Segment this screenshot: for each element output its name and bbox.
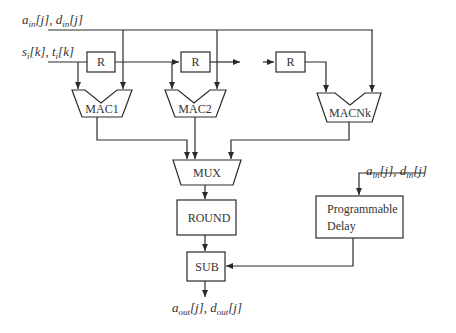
mux-label: MUX [193,166,221,180]
wire-r3-to-macnk [305,62,326,92]
macnk-label: MACNk [329,106,371,120]
register-2-label: R [191,55,199,69]
input-label-a-d-in: ain[j], din[j] [22,12,83,29]
wire-mac1-to-mux [97,117,187,159]
delay-label-line1: Programmable [327,202,398,216]
wire-delay-to-sub [226,238,353,266]
delay-label-line2: Delay [327,219,356,233]
output-label-a-d-out: aout[j], dout[j] [172,300,242,317]
sub-label: SUB [195,260,218,274]
mac1-label: MAC1 [85,102,118,116]
wire-macnk-to-mux [231,122,349,159]
delay-input-label: ain[j], din[j] [366,163,427,180]
register-3-label: R [286,55,294,69]
block-diagram: ain[j], din[j] si[k], ti[k] R R R MAC1 M… [0,0,456,333]
register-1-label: R [97,55,105,69]
input-label-s-t: si[k], ti[k] [22,44,74,61]
round-label: ROUND [188,211,231,225]
mac2-label: MAC2 [178,102,211,116]
